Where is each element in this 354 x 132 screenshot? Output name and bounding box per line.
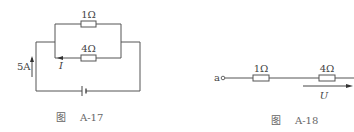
battery-icon: [82, 86, 86, 96]
current-5a-label: 5A: [17, 61, 31, 72]
circuit-diagrams: 1Ω 4Ω I 5A 图 A-17 a 1Ω 4Ω U 图: [0, 0, 354, 132]
figure-a17-caption-prefix: 图: [56, 112, 66, 123]
resistor-4ohm-label: 4Ω: [81, 43, 96, 54]
resistor-1ohm-series-label: 1Ω: [254, 63, 269, 74]
resistor-4ohm: [81, 55, 96, 61]
figure-a17: 1Ω 4Ω I 5A 图 A-17: [17, 9, 140, 123]
terminal-a-node-icon: [221, 76, 225, 80]
current-i-label: I: [58, 60, 64, 71]
voltage-u-arrowhead-icon: [346, 84, 353, 88]
voltage-u-label: U: [320, 90, 329, 101]
figure-a18-caption-prefix: 图: [271, 115, 281, 126]
resistor-4ohm-series: [319, 75, 335, 81]
terminal-a-label: a: [214, 72, 220, 83]
resistor-1ohm-label: 1Ω: [81, 9, 96, 20]
resistor-1ohm: [81, 21, 96, 27]
resistor-4ohm-series-label: 4Ω: [320, 63, 335, 74]
figure-a17-caption-number: A-17: [79, 112, 103, 123]
resistor-1ohm-series: [253, 75, 269, 81]
current-5a-arrowhead-icon: [30, 56, 34, 62]
figure-a18-caption-number: A-18: [294, 115, 318, 126]
figure-a18: a 1Ω 4Ω U 图 A-18: [214, 63, 354, 126]
